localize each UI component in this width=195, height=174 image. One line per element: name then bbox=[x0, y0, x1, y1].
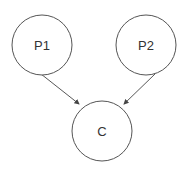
node-p2: P2 bbox=[116, 15, 176, 75]
node-p1-label: P1 bbox=[34, 38, 50, 53]
edge-p1-to-c bbox=[41, 74, 79, 104]
edge-p2-to-c bbox=[124, 74, 155, 104]
node-c-label: C bbox=[97, 124, 106, 139]
node-p2-label: P2 bbox=[138, 38, 154, 53]
diagram-canvas: P1 P2 C bbox=[0, 0, 195, 174]
node-p1: P1 bbox=[12, 15, 72, 75]
node-c: C bbox=[72, 101, 132, 161]
